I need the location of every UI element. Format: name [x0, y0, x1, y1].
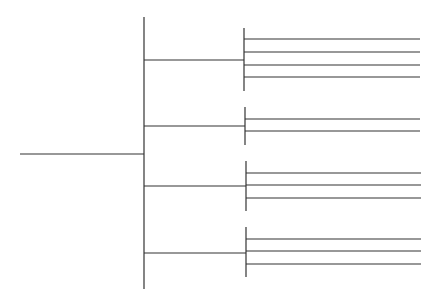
tree-diagram	[0, 0, 443, 303]
